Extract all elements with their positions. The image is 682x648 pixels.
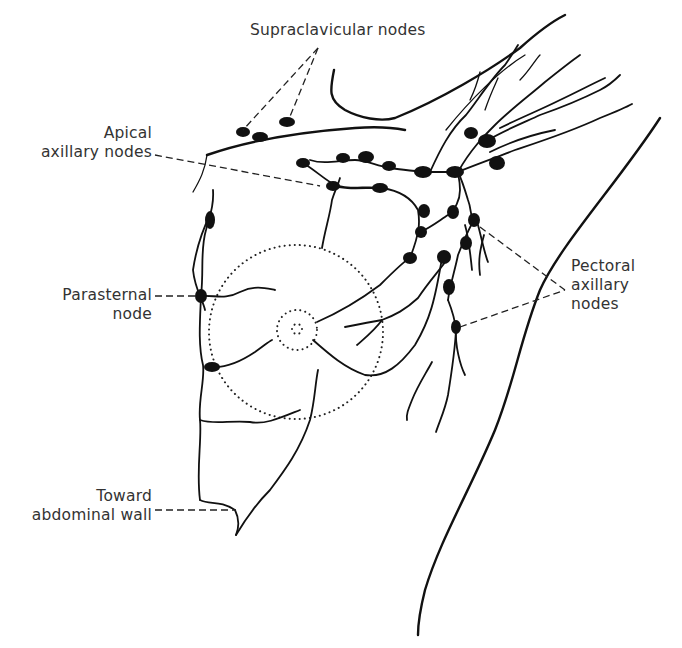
pectoral-node <box>403 252 417 264</box>
apical-node <box>446 166 464 178</box>
supraclavicular-node <box>236 127 250 137</box>
breast-dotted-outline <box>209 245 383 419</box>
leader-supraclavicular-2 <box>289 48 318 119</box>
apical-node <box>358 151 374 163</box>
apical-node <box>464 127 478 139</box>
apical-node <box>372 183 388 193</box>
lymphatic-vessels <box>193 45 632 535</box>
areola-dotted-outline <box>277 310 317 350</box>
apical-node <box>489 156 505 170</box>
pectoral-node <box>451 320 461 334</box>
pectoral-fold-outline <box>446 55 525 130</box>
label-apical-axillary-nodes: Apical axillary nodes <box>41 124 152 162</box>
label-toward-abdominal-wall: Toward abdominal wall <box>32 487 152 525</box>
label-pectoral-axillary-nodes: Pectoral axillary nodes <box>571 257 635 314</box>
pectoral-node <box>460 236 472 250</box>
apical-node <box>382 161 396 171</box>
leader-supraclavicular-1 <box>243 48 318 130</box>
parasternal-node-lower <box>204 362 220 372</box>
neck-outline <box>193 155 207 192</box>
label-parasternal-node: Parasternal node <box>62 286 152 324</box>
leader-pectoral-1 <box>480 227 565 290</box>
apical-node <box>326 181 340 191</box>
label-supraclavicular-nodes: Supraclavicular nodes <box>250 21 426 40</box>
pectoral-node <box>437 250 451 264</box>
pectoral-node <box>468 213 480 227</box>
apical-node <box>418 204 430 218</box>
arm-trunk-outline <box>418 118 660 635</box>
parasternal-node <box>195 289 207 303</box>
lymph-nodes <box>195 117 505 372</box>
apical-node <box>478 134 496 148</box>
leader-pectoral-2 <box>460 290 565 327</box>
breast-lymphatic-diagram: Supraclavicular nodes Apical axillary no… <box>0 0 682 648</box>
apical-node <box>336 153 350 163</box>
breast-outlines <box>209 245 383 419</box>
diagram-artwork <box>0 0 682 648</box>
apical-node <box>414 166 432 178</box>
apical-node <box>447 205 459 219</box>
apical-node <box>296 158 310 168</box>
pectoral-node <box>443 279 455 295</box>
supraclavicular-node <box>252 132 268 142</box>
leader-apical <box>155 155 320 186</box>
parasternal-node-upper <box>205 211 215 229</box>
supraclavicular-node <box>279 117 295 127</box>
apical-node <box>415 226 427 238</box>
nipple-dotted-outline <box>292 324 302 334</box>
